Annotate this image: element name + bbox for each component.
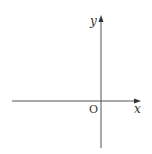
y-axis-label: y xyxy=(89,14,97,28)
coordinate-plane: y O x xyxy=(0,0,152,154)
x-axis-label: x xyxy=(134,102,141,116)
y-axis-arrow-icon xyxy=(99,15,104,22)
origin-label: O xyxy=(89,103,98,116)
